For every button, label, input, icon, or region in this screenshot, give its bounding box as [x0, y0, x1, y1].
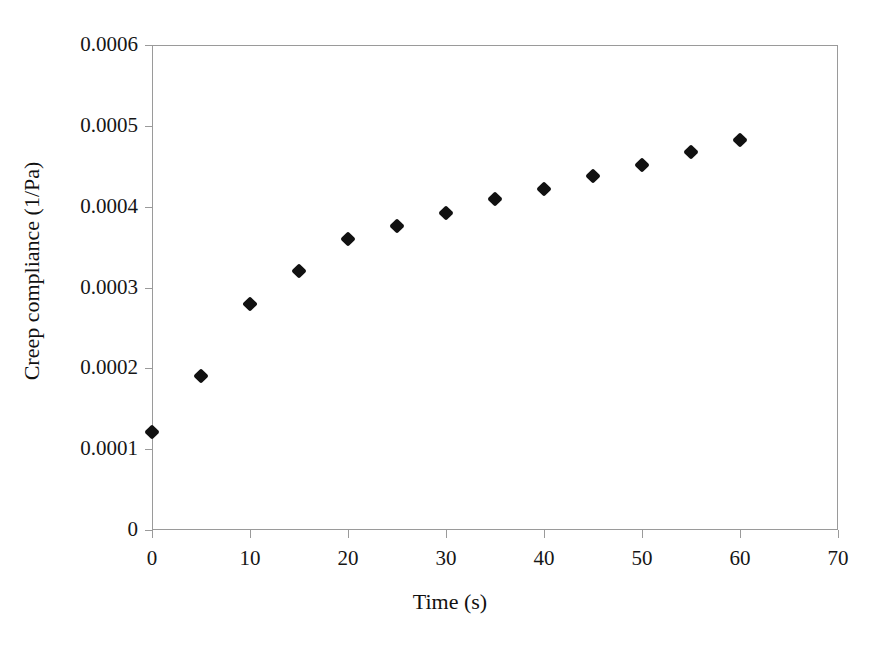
x-axis-tick: [838, 530, 839, 538]
creep-compliance-chart: 00.00010.00020.00030.00040.00050.0006 Cr…: [0, 0, 880, 646]
x-axis-tick-label: 50: [632, 548, 653, 569]
y-axis-tick-label: 0.0005: [80, 115, 138, 136]
x-axis-tick-label: 20: [338, 548, 359, 569]
y-axis-tick-label: 0.0002: [80, 357, 138, 378]
y-axis-tick: [145, 368, 152, 369]
y-axis-tick-label: 0.0001: [80, 438, 138, 459]
y-axis-tick-label: 0.0004: [80, 196, 138, 217]
y-axis-tick-label: 0: [128, 519, 139, 540]
x-axis-tick-label: 10: [240, 548, 261, 569]
y-axis-tick-label: 0.0003: [80, 277, 138, 298]
y-axis-tick: [145, 530, 152, 531]
x-axis-tick-label: 0: [147, 548, 158, 569]
x-axis-tick-label: 30: [436, 548, 457, 569]
y-axis-tick: [145, 449, 152, 450]
x-axis-tick-label: 40: [534, 548, 555, 569]
x-axis-tick-label: 60: [730, 548, 751, 569]
x-axis-title: Time (s): [0, 589, 880, 615]
x-axis-tick-label: 70: [828, 548, 849, 569]
y-axis-tick: [145, 207, 152, 208]
y-axis-tick: [145, 288, 152, 289]
y-axis-tick-label: 0.0006: [80, 34, 138, 55]
x-axis-tick-labels: 010203040506070: [152, 0, 838, 646]
y-axis-title: Creep compliance (1/Pa): [19, 61, 45, 481]
y-axis-tick: [145, 126, 152, 127]
y-axis-tick: [145, 45, 152, 46]
